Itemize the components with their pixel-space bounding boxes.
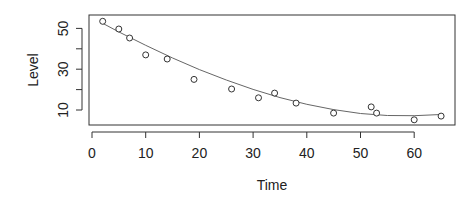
y-tick-label: 30 (55, 61, 71, 77)
data-point (164, 56, 170, 62)
data-point (256, 95, 262, 101)
data-point (374, 110, 380, 116)
x-tick-label: 10 (138, 145, 154, 161)
x-axis: 0102030405060 (88, 132, 422, 161)
data-point (143, 52, 149, 58)
fitted-curve (103, 23, 441, 115)
x-axis-label: Time (257, 177, 288, 193)
x-tick-label: 20 (192, 145, 208, 161)
y-tick-label: 50 (55, 20, 71, 36)
plot-box (89, 15, 455, 125)
data-point (411, 117, 417, 123)
data-point (293, 100, 299, 106)
x-tick-label: 50 (353, 145, 369, 161)
x-tick-label: 40 (299, 145, 315, 161)
data-point (100, 18, 106, 24)
data-point (116, 26, 122, 32)
data-point (127, 35, 133, 41)
x-tick-label: 30 (245, 145, 261, 161)
y-tick-label: 10 (55, 102, 71, 118)
x-tick-label: 60 (406, 145, 422, 161)
x-tick-label: 0 (88, 145, 96, 161)
y-axis-label: Level (25, 53, 41, 86)
data-point (438, 113, 444, 119)
data-points (100, 18, 444, 123)
data-point (229, 86, 235, 92)
data-point (368, 104, 374, 110)
chart: 0102030405060 103050 Time Level (0, 0, 476, 199)
data-point (272, 90, 278, 96)
data-point (331, 110, 337, 116)
data-point (191, 76, 197, 82)
y-axis: 103050 (55, 20, 82, 117)
